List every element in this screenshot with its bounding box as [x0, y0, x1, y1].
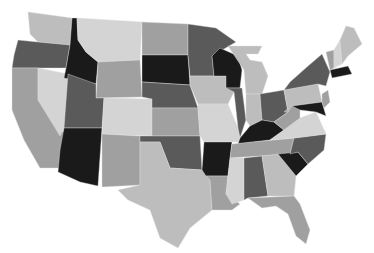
state-oregon[interactable]: Oregon: [12, 40, 70, 68]
states-layer: Washington Oregon California Nevada Idah…: [12, 12, 362, 248]
state-arkansas[interactable]: Arkansas: [202, 142, 232, 176]
state-arizona[interactable]: Arizona: [58, 128, 102, 186]
state-south-dakota[interactable]: South Dakota: [142, 55, 190, 85]
state-maine[interactable]: Maine: [340, 26, 362, 64]
state-new-york[interactable]: New York: [284, 54, 330, 90]
state-missouri[interactable]: Missouri: [198, 104, 240, 142]
state-new-jersey[interactable]: New Jersey: [322, 90, 330, 108]
us-map: Washington Oregon California Nevada Idah…: [0, 0, 374, 253]
state-north-dakota[interactable]: North Dakota: [142, 22, 188, 55]
state-new-mexico[interactable]: New Mexico: [102, 134, 140, 187]
state-washington[interactable]: Washington: [28, 12, 72, 45]
state-kansas[interactable]: Kansas: [152, 108, 200, 136]
state-colorado[interactable]: Colorado: [102, 98, 152, 136]
state-wyoming[interactable]: Wyoming: [96, 60, 142, 98]
state-florida[interactable]: Florida: [248, 196, 310, 244]
